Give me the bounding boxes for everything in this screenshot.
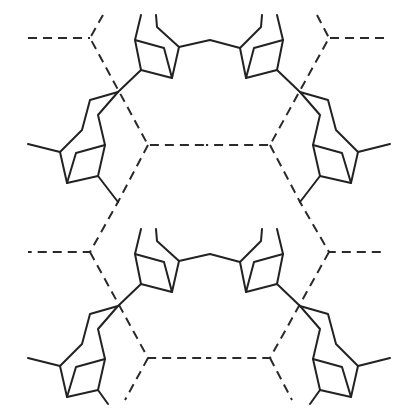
molecular-network-diagram [0, 0, 412, 420]
molecule-layer-top [28, 15, 390, 202]
hydrogen-bond-network [28, 15, 384, 400]
molecule-layer-bottom [28, 229, 390, 404]
